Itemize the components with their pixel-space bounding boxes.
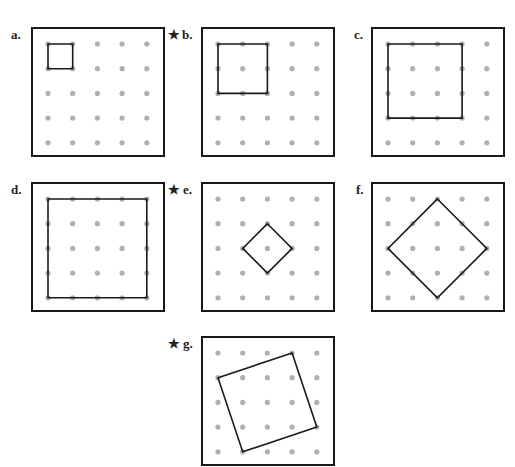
peg-dot — [215, 116, 220, 121]
geoboard-grid — [203, 184, 333, 310]
peg-dot — [45, 140, 50, 145]
peg-dot — [410, 196, 415, 201]
panel-label-e: e. — [183, 183, 192, 196]
peg-dot — [95, 140, 100, 145]
peg-dot — [410, 246, 415, 251]
geoboard-grid — [203, 29, 333, 155]
peg-dot — [435, 221, 440, 226]
star-icon: ★ — [168, 337, 180, 350]
peg-dot — [314, 66, 319, 71]
peg-dot — [290, 449, 295, 454]
peg-dot — [314, 196, 319, 201]
peg-dot — [70, 140, 75, 145]
peg-dot — [95, 221, 100, 226]
peg-dot — [484, 66, 489, 71]
peg-dot — [435, 271, 440, 276]
peg-dot — [265, 449, 270, 454]
peg-dot — [385, 271, 390, 276]
geoboard-grid — [203, 338, 333, 464]
square-shape — [48, 44, 73, 69]
peg-dot — [215, 425, 220, 430]
peg-dot — [144, 66, 149, 71]
peg-dot — [410, 66, 415, 71]
peg-dot — [314, 350, 319, 355]
peg-dot — [314, 400, 319, 405]
peg-dot — [265, 400, 270, 405]
peg-dot — [290, 91, 295, 96]
peg-dot — [484, 271, 489, 276]
peg-dot — [435, 66, 440, 71]
peg-dot — [314, 91, 319, 96]
peg-dot — [385, 140, 390, 145]
peg-dot — [460, 295, 465, 300]
peg-dot — [240, 116, 245, 121]
peg-dot — [290, 375, 295, 380]
panel-label-g: g. — [183, 337, 193, 350]
peg-dot — [95, 271, 100, 276]
panel-b — [201, 27, 335, 157]
peg-dot — [265, 350, 270, 355]
peg-dot — [70, 246, 75, 251]
peg-dot — [240, 295, 245, 300]
peg-dot — [45, 116, 50, 121]
peg-dot — [215, 449, 220, 454]
peg-dot — [460, 140, 465, 145]
panel-label-a: a. — [11, 28, 21, 41]
peg-dot — [215, 140, 220, 145]
geoboard-grid — [33, 184, 163, 310]
peg-dot — [240, 350, 245, 355]
peg-dot — [290, 41, 295, 46]
geoboard-grid — [373, 29, 503, 155]
peg-dot — [290, 425, 295, 430]
peg-dot — [314, 271, 319, 276]
peg-dot — [120, 66, 125, 71]
peg-dot — [95, 91, 100, 96]
peg-dot — [144, 41, 149, 46]
peg-dot — [215, 246, 220, 251]
peg-dot — [265, 140, 270, 145]
peg-dot — [265, 295, 270, 300]
peg-dot — [70, 271, 75, 276]
peg-dot — [265, 246, 270, 251]
peg-dot — [95, 246, 100, 251]
peg-dot — [265, 116, 270, 121]
panel-f — [371, 182, 505, 312]
peg-dot — [314, 295, 319, 300]
panel-g — [201, 336, 335, 466]
peg-dot — [240, 375, 245, 380]
peg-dot — [290, 140, 295, 145]
peg-dot — [314, 41, 319, 46]
peg-dot — [290, 221, 295, 226]
peg-dot — [240, 66, 245, 71]
peg-dot — [435, 246, 440, 251]
peg-dot — [144, 91, 149, 96]
peg-dot — [484, 196, 489, 201]
peg-dot — [484, 116, 489, 121]
peg-dot — [385, 221, 390, 226]
peg-dot — [484, 295, 489, 300]
geoboard-grid — [33, 29, 163, 155]
peg-dot — [484, 221, 489, 226]
geoboard-grid — [373, 184, 503, 310]
panel-c — [371, 27, 505, 157]
peg-dot — [240, 140, 245, 145]
peg-dot — [215, 400, 220, 405]
peg-dot — [70, 116, 75, 121]
peg-dot — [215, 196, 220, 201]
peg-dot — [144, 140, 149, 145]
peg-dot — [215, 350, 220, 355]
peg-dot — [385, 295, 390, 300]
peg-dot — [385, 196, 390, 201]
peg-dot — [215, 295, 220, 300]
peg-dot — [314, 140, 319, 145]
peg-dot — [215, 271, 220, 276]
peg-dot — [290, 66, 295, 71]
peg-dot — [460, 246, 465, 251]
peg-dot — [265, 375, 270, 380]
peg-dot — [120, 91, 125, 96]
peg-dot — [144, 116, 149, 121]
panel-d — [31, 182, 165, 312]
peg-dot — [290, 295, 295, 300]
peg-dot — [120, 116, 125, 121]
peg-dot — [70, 221, 75, 226]
